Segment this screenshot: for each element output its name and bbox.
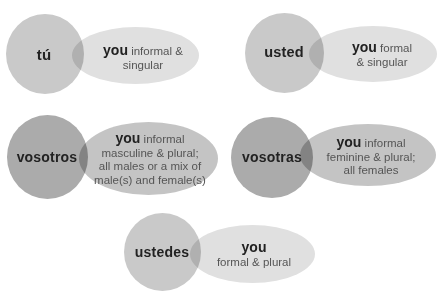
- definition-line: informal: [365, 137, 406, 149]
- pronoun-label: tú: [37, 46, 52, 63]
- you-label: you: [336, 134, 361, 150]
- you-label: you: [242, 239, 267, 255]
- definition-text: you informal masculine & plural; all mal…: [94, 130, 206, 187]
- pronoun-label: vosotros: [17, 149, 78, 165]
- you-label: you: [103, 42, 128, 58]
- pronoun-label: ustedes: [135, 244, 189, 260]
- definition-line: & singular: [352, 56, 412, 70]
- cut-off-header-text: [0, 0, 220, 2]
- definition-text: you informal feminine & plural; all fema…: [327, 134, 416, 178]
- definition-line: formal & plural: [217, 256, 291, 270]
- definition-line: male(s) and female(s): [94, 174, 206, 188]
- definition-line: informal: [144, 133, 185, 145]
- definition-line: masculine & plural;: [94, 147, 206, 161]
- definition-line: all females: [327, 164, 416, 178]
- definition-text: you formal & plural: [217, 239, 291, 269]
- definition-text: you informal & singular: [103, 42, 183, 72]
- definition-line: all males or a mix of: [94, 161, 206, 175]
- you-label: you: [116, 130, 141, 146]
- pronoun-label: vosotras: [242, 149, 302, 165]
- definition-line: singular: [103, 59, 183, 73]
- pronoun-label: usted: [264, 44, 304, 60]
- definition-line: formal: [380, 42, 412, 54]
- definition-line: informal &: [131, 45, 183, 57]
- definition-text: you formal & singular: [352, 39, 412, 69]
- you-label: you: [352, 39, 377, 55]
- definition-line: feminine & plural;: [327, 151, 416, 165]
